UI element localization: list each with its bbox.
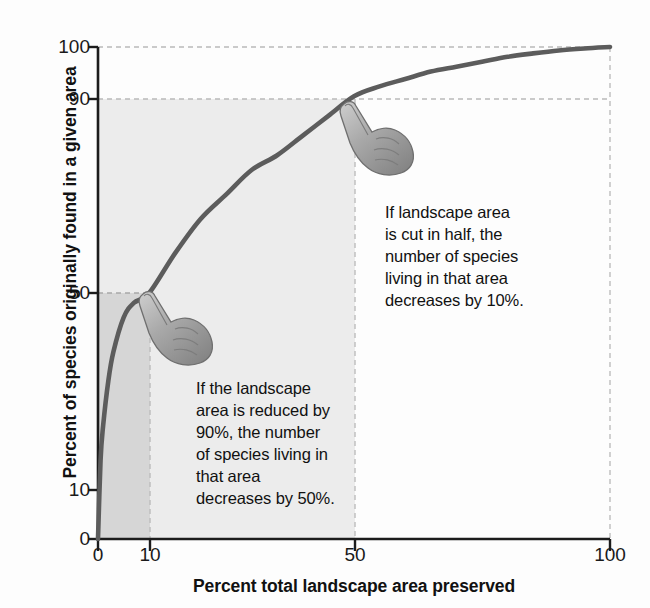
species-area-chart: If landscape area is cut in half, the nu… xyxy=(0,0,650,608)
x-tick-label-100: 100 xyxy=(580,545,640,564)
annotation-text-cut-in-half: If landscape area is cut in half, the nu… xyxy=(385,202,600,312)
pointing-hand-icon xyxy=(129,286,221,370)
x-axis-title: Percent total landscape area preserved xyxy=(98,576,610,597)
pointing-hand-icon xyxy=(330,96,422,180)
y-axis-title: Percent of species originally found in a… xyxy=(60,0,81,553)
x-tick-label-10: 10 xyxy=(120,545,180,564)
annotation-text-reduced-by-90: If the landscape area is reduced by 90%,… xyxy=(196,378,401,510)
x-tick-label-50: 50 xyxy=(325,545,385,564)
